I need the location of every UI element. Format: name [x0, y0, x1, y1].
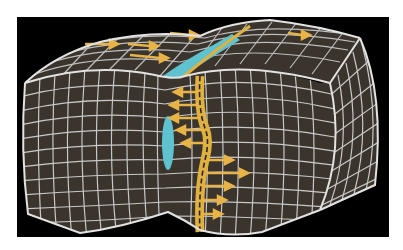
block-diagram: [0, 0, 403, 250]
front-cavity: [162, 116, 174, 170]
front-face: [20, 65, 340, 240]
